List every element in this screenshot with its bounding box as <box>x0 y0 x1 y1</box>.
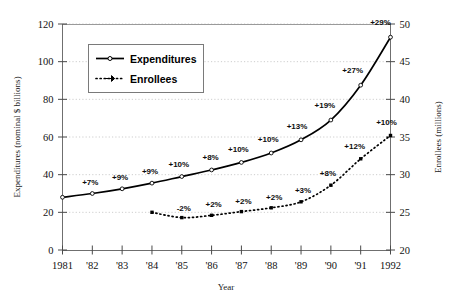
annotation-expenditures: +10% <box>168 160 189 169</box>
annotation-expenditures: +13% <box>287 122 308 131</box>
y-tick-label-right: 40 <box>400 94 411 105</box>
marker-expenditures <box>120 187 124 191</box>
y-axis-left-title: Expenditures (nominal $ billions) <box>12 76 22 197</box>
annotation-enrollees: +8% <box>320 169 336 178</box>
data-point-enrollees <box>150 211 153 214</box>
chart-legend[interactable]: Expenditures Enrollees <box>89 45 204 93</box>
data-point-expenditures <box>120 187 124 191</box>
annotation-enrollees: -2% <box>177 204 191 213</box>
x-tick-label: '88 <box>265 260 277 271</box>
annotation-expenditures: +8% <box>202 153 218 162</box>
data-point-expenditures <box>61 195 65 199</box>
data-point-expenditures <box>240 161 244 165</box>
y-tick-label-left: 120 <box>38 19 54 30</box>
marker-expenditures <box>150 181 154 185</box>
data-point-expenditures <box>299 138 303 142</box>
data-point-enrollees <box>270 206 273 209</box>
x-tick-label: '85 <box>176 260 188 271</box>
marker-expenditures <box>389 35 393 39</box>
annotation-enrollees: +12% <box>344 142 365 151</box>
marker-expenditures <box>269 151 273 155</box>
x-tick-label: '83 <box>116 260 128 271</box>
annotation-expenditures: +9% <box>142 167 158 176</box>
marker-expenditures <box>90 192 94 196</box>
data-point-enrollees <box>359 157 362 160</box>
y-axis-right-title: Enrollees (millions) <box>433 101 443 173</box>
chart-container: 120100806040200 50454035302520 1981'82'8… <box>0 0 457 301</box>
marker-expenditures <box>180 175 184 179</box>
data-point-expenditures <box>150 181 154 185</box>
data-point-enrollees <box>299 200 302 203</box>
x-axis-title: Year <box>218 282 235 292</box>
x-tick-label: '89 <box>295 260 307 271</box>
data-point-enrollees <box>180 216 183 219</box>
x-tick-label: 1992 <box>380 260 401 271</box>
x-tick-label: '90 <box>325 260 337 271</box>
y-tick-label-left: 100 <box>38 56 54 67</box>
x-tick-label: '91 <box>354 260 366 271</box>
line-chart: 120100806040200 50454035302520 1981'82'8… <box>0 0 457 301</box>
legend-marker-expenditures <box>108 57 112 61</box>
annotation-enrollees: +3% <box>295 186 311 195</box>
x-tick-label: '82 <box>86 260 98 271</box>
annotation-expenditures: +10% <box>258 135 279 144</box>
marker-expenditures <box>240 161 244 165</box>
y-tick-label-right: 25 <box>400 207 411 218</box>
marker-expenditures <box>61 195 65 199</box>
annotation-expenditures: +10% <box>228 145 249 154</box>
marker-expenditures <box>329 118 333 122</box>
y-tick-label-left: 20 <box>43 207 54 218</box>
y-tick-label-left: 40 <box>43 169 54 180</box>
marker-expenditures <box>299 138 303 142</box>
annotation-enrollees: +2% <box>235 197 251 206</box>
data-point-enrollees <box>240 210 243 213</box>
x-tick-label: '87 <box>235 260 247 271</box>
annotation-enrollees: +2% <box>205 200 221 209</box>
y-tick-label-right: 20 <box>400 245 411 256</box>
x-tick-label: '86 <box>205 260 217 271</box>
annotation-expenditures: +9% <box>112 173 128 182</box>
y-tick-label-right: 30 <box>400 169 411 180</box>
annotation-expenditures: +29% <box>370 18 391 27</box>
data-point-expenditures <box>329 118 333 122</box>
y-tick-label-left: 80 <box>43 94 54 105</box>
y-tick-label-left: 60 <box>43 132 54 143</box>
annotation-expenditures: +19% <box>315 101 336 110</box>
y-tick-label-right: 45 <box>400 56 411 67</box>
data-point-expenditures <box>359 83 363 87</box>
data-point-enrollees <box>329 184 332 187</box>
legend-label-enrollees: Enrollees <box>130 73 177 85</box>
marker-expenditures <box>359 83 363 87</box>
data-point-expenditures <box>389 35 393 39</box>
annotation-expenditures: +27% <box>342 66 363 75</box>
data-point-enrollees <box>389 134 392 137</box>
y-tick-label-left: 0 <box>48 245 53 256</box>
annotation-enrollees: +10% <box>376 118 397 127</box>
y-tick-label-right: 35 <box>400 132 411 143</box>
data-point-expenditures <box>90 192 94 196</box>
x-tick-label: 1981 <box>52 260 73 271</box>
data-point-expenditures <box>269 151 273 155</box>
y-tick-label-right: 50 <box>400 19 411 30</box>
data-point-enrollees <box>210 214 213 217</box>
legend-label-expenditures: Expenditures <box>130 53 197 65</box>
marker-expenditures <box>210 168 214 172</box>
data-point-expenditures <box>210 168 214 172</box>
x-tick-label: '84 <box>146 260 159 271</box>
data-point-expenditures <box>180 175 184 179</box>
annotation-enrollees: +2% <box>266 193 282 202</box>
annotation-expenditures: +7% <box>82 178 98 187</box>
